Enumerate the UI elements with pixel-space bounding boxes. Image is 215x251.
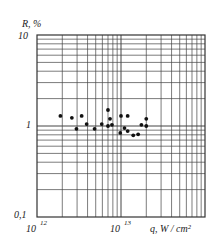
data-point [108,117,112,121]
data-point [80,114,84,118]
y-tick-label-0-1: 0,1 [14,209,27,220]
data-point [144,124,148,128]
data-point [70,116,74,120]
data-point [118,131,122,135]
data-point [126,114,130,118]
x-tick-label-1e12-exp: 12 [40,219,48,227]
data-point [100,122,104,126]
data-point [144,117,148,121]
data-point [85,122,89,126]
x-tick-label-1e12-base: 10 [26,223,36,234]
x-axis-title: q, W / cm² [150,223,192,234]
data-point [119,114,123,118]
data-point [106,108,110,112]
y-axis-title: R, % [21,18,41,29]
y-tick-label-1: 1 [26,119,31,130]
data-point [93,127,97,131]
data-point [106,124,110,128]
y-tick-label-10: 10 [18,30,28,41]
data-point [126,129,130,133]
data-point [140,123,144,127]
data-point [123,126,127,130]
data-point [59,114,63,118]
grid [37,35,205,217]
data-point [131,133,135,137]
data-points [59,108,149,137]
data-point [110,123,114,127]
data-point [136,132,140,136]
data-point [75,127,79,131]
chart: R, % 10 1 0,1 10 12 10 13 q, W / cm² [0,0,215,251]
x-tick-label-1e13-exp: 13 [124,219,132,227]
x-tick-label-1e13-base: 10 [110,223,120,234]
